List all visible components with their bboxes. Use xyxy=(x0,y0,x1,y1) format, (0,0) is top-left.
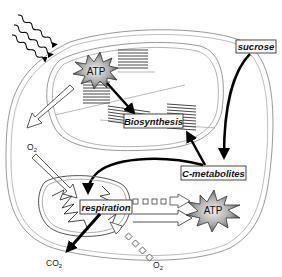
atp-cytosol-label: ATP xyxy=(204,205,223,216)
c-metabolites-label: C-metabolites xyxy=(182,168,245,179)
sucrose-to-cmetabolites-arrow xyxy=(224,54,250,156)
o2-top-label: O2 xyxy=(27,142,38,153)
atp-star-cytosol: ATP xyxy=(186,190,240,232)
co2-label: CO2 xyxy=(46,258,63,269)
light-wave-icon xyxy=(11,14,57,62)
respiration-label: respiration xyxy=(81,202,130,213)
granum-top xyxy=(118,50,148,68)
respiration-to-atp-arrow xyxy=(133,194,192,226)
c-metabolites-box: C-metabolites xyxy=(181,166,246,180)
cell-diagram: ATP Biosynthesis sucrose C-metabolites O… xyxy=(0,0,282,277)
o2-bottom-label: O2 xyxy=(153,260,164,271)
cell-wall xyxy=(6,30,273,261)
atp-chloroplast-label: ATP xyxy=(87,66,106,77)
sucrose-box: sucrose xyxy=(236,40,276,53)
o2-release-arrow xyxy=(27,85,74,128)
sucrose-label: sucrose xyxy=(238,41,275,52)
cmetabolites-to-biosynthesis-arrow xyxy=(188,134,205,165)
biosynthesis-label: Biosynthesis xyxy=(124,116,183,127)
respiration-box: respiration xyxy=(80,200,132,214)
biosynthesis-box: Biosynthesis xyxy=(124,114,183,128)
